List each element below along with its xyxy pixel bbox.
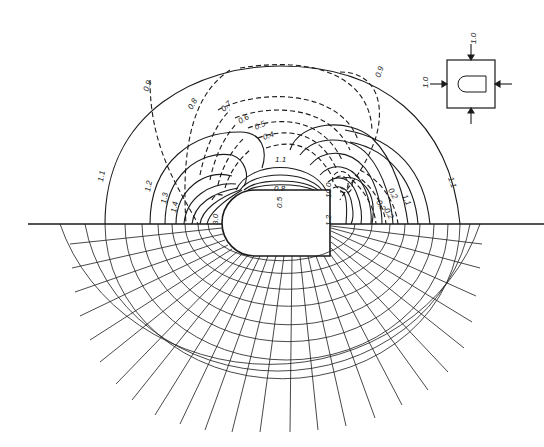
- dashed-label: 0.9: [141, 79, 153, 93]
- solid-label: 1.1: [446, 176, 458, 190]
- solid-label: 1.2: [143, 179, 154, 192]
- dashed-label: 0.6: [237, 112, 252, 126]
- solid-label: 1.1: [400, 193, 413, 207]
- dashed-label: 0.7: [219, 99, 234, 114]
- solid-label: 1.4: [169, 200, 180, 213]
- solid-label: 1.3: [159, 191, 170, 204]
- dashed-label: 0.4: [262, 129, 276, 141]
- dashed-label: 0.2: [386, 187, 400, 202]
- stress-field-diagram: 1.1 1.2 1.3 1.4 1.1 0.8 1.1 1.1 0.9 0.8 …: [0, 0, 544, 447]
- boundary-label: 10.0: [324, 182, 333, 198]
- boundary-label: 0.5: [275, 196, 284, 208]
- dashed-label: 0.8: [186, 96, 200, 111]
- solid-label: 1.1: [96, 170, 107, 183]
- inset-load-diagram: [430, 44, 512, 124]
- boundary-label: 1.2: [324, 214, 333, 226]
- solid-label: 1.1: [275, 155, 286, 164]
- dashed-label: 0.9: [373, 65, 385, 79]
- solid-label: 0.8: [274, 184, 286, 193]
- dashed-label: 0.5: [253, 119, 267, 132]
- inset-left-load-label: 1.0: [421, 76, 430, 88]
- boundary-label: 3.0: [211, 213, 220, 225]
- inset-top-load-label: 1.0: [469, 32, 478, 44]
